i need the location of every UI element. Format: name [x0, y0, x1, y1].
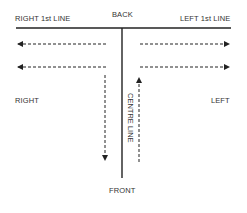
label-left: LEFT — [211, 96, 230, 105]
label-back: BACK — [112, 10, 133, 19]
label-right: RIGHT — [15, 96, 39, 105]
label-right-first-line: RIGHT 1st LINE — [15, 14, 70, 23]
diagram-lines — [0, 0, 247, 213]
label-centre-line: CENTRE LINE — [126, 93, 135, 143]
label-front: FRONT — [109, 186, 135, 195]
label-left-first-line: LEFT 1st LINE — [180, 14, 230, 23]
